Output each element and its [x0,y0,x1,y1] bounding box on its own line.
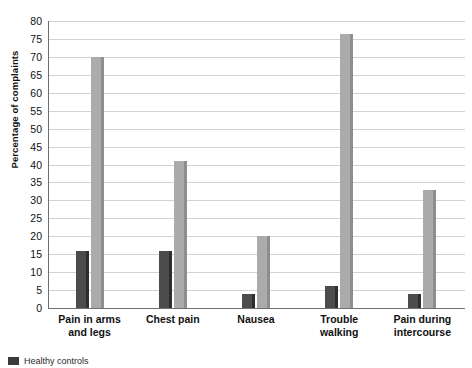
y-axis-tick-label: 35 [8,177,42,188]
bar-face [257,236,267,308]
y-axis-tick-label: 30 [8,195,42,206]
y-axis-tick-label: 60 [8,88,42,99]
bar-side [350,34,353,308]
chart-legend: Healthy controls [8,357,89,366]
y-axis-tick-label: 50 [8,124,42,135]
legend-item-label: Healthy controls [24,357,89,366]
bar-face [408,294,418,308]
bar-face [159,251,169,308]
bar-side [418,294,421,308]
bar-face [423,190,433,308]
gridline [49,200,465,201]
bar-face [174,161,184,308]
bar [159,251,172,308]
bar [257,236,270,308]
bar-face [91,57,101,308]
x-axis-label: Pain during intercourse [381,313,464,338]
bar [242,294,255,308]
x-axis-label: Nausea [214,313,297,326]
bar-side [335,286,338,308]
gridline [49,93,465,94]
bar-side [433,190,436,308]
bar-side [267,236,270,308]
gridline [49,165,465,166]
gridline [49,129,465,130]
legend-swatch-icon [8,357,19,365]
gridline [49,75,465,76]
y-axis-tick-label: 45 [8,142,42,153]
bar-face [325,286,335,308]
bar-chart: Percentage of complaints 051015202530354… [0,0,472,368]
y-axis-tick-label: 20 [8,231,42,242]
bar [408,294,421,308]
gridline [49,218,465,219]
bar-side [86,251,89,308]
bar-side [184,161,187,308]
bar [340,34,353,308]
gridline [49,57,465,58]
y-axis-tick-label: 40 [8,160,42,171]
y-axis-tick-label: 55 [8,106,42,117]
bar-side [101,57,104,308]
bar-face [340,34,350,308]
y-axis-tick-label: 75 [8,34,42,45]
gridline [49,39,465,40]
bar [91,57,104,308]
gridline [49,147,465,148]
bar-face [242,294,252,308]
gridline [49,111,465,112]
bar [76,251,89,308]
y-axis-tick-label: 10 [8,267,42,278]
bar [174,161,187,308]
y-axis-tick-label: 80 [8,16,42,27]
x-axis-label: Pain in arms and legs [48,313,131,338]
y-axis-tick-label: 25 [8,213,42,224]
bar [325,286,338,308]
x-axis-label: Chest pain [131,313,214,326]
y-axis-tick-label: 0 [8,303,42,314]
y-axis-tick-label: 15 [8,249,42,260]
bar-side [169,251,172,308]
y-axis-tick-label: 5 [8,285,42,296]
y-axis-tick-label: 70 [8,52,42,63]
x-axis-label: Trouble walking [298,313,381,338]
y-axis-tick-label: 65 [8,70,42,81]
bar-side [252,294,255,308]
bar [423,190,436,308]
gridline [49,182,465,183]
gridline [49,21,465,22]
bar-face [76,251,86,308]
